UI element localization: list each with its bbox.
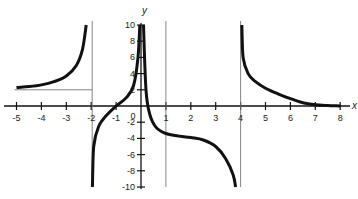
- x-tick-label: 6: [288, 113, 293, 123]
- y-tick-label: -10: [122, 182, 135, 192]
- y-tick-label: -6: [127, 150, 135, 160]
- x-tick-label: 1: [163, 113, 168, 123]
- x-axis-label: x: [351, 100, 358, 111]
- x-tick-label: -4: [37, 113, 45, 123]
- x-tick-label: -3: [62, 113, 70, 123]
- x-tick-label: -1: [112, 113, 120, 123]
- axes: [4, 23, 350, 189]
- curve-branch-1: [17, 25, 87, 87]
- y-tick-label: 2: [130, 85, 135, 95]
- x-tick-label: 8: [338, 113, 343, 123]
- y-tick-label: 4: [130, 69, 135, 79]
- x-tick-label: 7: [313, 113, 318, 123]
- y-axis-label: y: [141, 5, 148, 16]
- y-tick-label: -8: [127, 166, 135, 176]
- x-tick-label: -2: [87, 113, 95, 123]
- y-tick-label: -2: [127, 117, 135, 127]
- y-tick-label: 10: [125, 20, 135, 30]
- y-tick-label: 8: [130, 36, 135, 46]
- x-tick-label: 3: [213, 113, 218, 123]
- x-tick-label: 2: [188, 113, 193, 123]
- x-tick-label: 5: [263, 113, 268, 123]
- tick-labels: -5-4-3-2-1123456780-10-8-6-4-2246810xy: [12, 5, 358, 192]
- rational-function-graph: -5-4-3-2-1123456780-10-8-6-4-2246810xy: [0, 0, 358, 199]
- x-tick-label: -5: [12, 113, 20, 123]
- asymptote-lines: [15, 21, 241, 187]
- x-tick-label: 4: [238, 113, 243, 123]
- y-tick-label: 6: [130, 52, 135, 62]
- curve-branch-4: [242, 25, 340, 106]
- y-tick-label: -4: [127, 133, 135, 143]
